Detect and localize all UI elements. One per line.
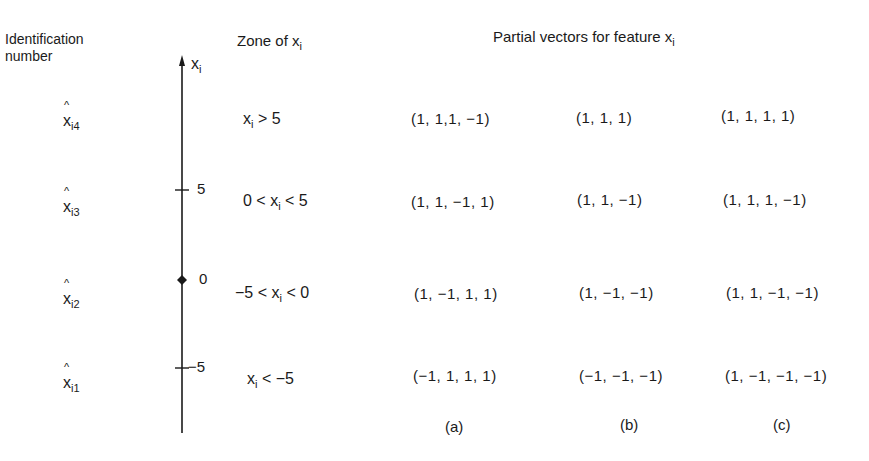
tick-label-0: 0 [199,270,207,287]
zone-row-2: −5 < xi < 0 [235,284,309,302]
vector-a-row-1: (−1, 1, 1, 1) [413,367,497,384]
caption-c: (c) [773,416,791,433]
axis-label: xi [191,55,201,73]
hat-symbol: ^ [64,361,69,373]
hat-symbol: ^ [64,185,69,197]
id-base: x [63,374,71,391]
vector-c-row-4: (1, 1, 1, 1) [721,107,795,124]
vector-b-row-1: (−1, −1, −1) [579,367,663,384]
x-axis-line [0,0,869,461]
zone-post: > 5 [253,110,280,127]
zone-row-1: xi < −5 [247,370,294,388]
hat-symbol: ^ [64,277,69,289]
zone-row-4: xi > 5 [243,110,281,128]
id-base: x [63,290,71,307]
zone-post: < 5 [281,192,308,209]
zone-pre: 0 < [243,192,270,209]
zone-pre: −5 < [235,284,271,301]
vector-b-row-3: (1, 1, −1) [577,191,642,208]
zone-post: < −5 [257,370,293,387]
vector-a-row-4: (1, 1,1, −1) [411,110,490,127]
axis-label-sub: i [199,63,201,75]
zone-var: x [270,192,278,209]
tick-label-neg5: −5 [188,358,205,375]
identification-x-i3: ^xi3 [63,198,80,216]
caption-a: (a) [445,418,463,435]
identification-x-i4: ^xi4 [63,112,80,130]
id-sub: i4 [71,120,80,132]
tick-label-5: 5 [197,180,205,197]
id-sub: i1 [71,382,80,394]
vector-a-row-2: (1, −1, 1, 1) [414,285,498,302]
caption-b: (b) [620,416,638,433]
axis-label-text: x [191,55,199,72]
vector-b-row-4: (1, 1, 1) [576,109,632,126]
vector-c-row-1: (1, −1, −1, −1) [725,367,827,384]
zone-row-3: 0 < xi < 5 [243,192,308,210]
zone-var: x [243,110,251,127]
identification-x-i1: ^xi1 [63,374,80,392]
id-sub: i3 [71,206,80,218]
zone-var: x [247,370,255,387]
id-base: x [63,112,71,129]
identification-x-i2: ^xi2 [63,290,80,308]
zone-post: < 0 [282,284,309,301]
id-base: x [63,198,71,215]
vector-b-row-2: (1, −1, −1) [579,284,654,301]
vector-c-row-3: (1, 1, 1, −1) [723,191,807,208]
hat-symbol: ^ [64,99,69,111]
id-sub: i2 [71,298,80,310]
vector-a-row-3: (1, 1, −1, 1) [411,193,495,210]
vector-c-row-2: (1, 1, −1, −1) [726,284,819,301]
